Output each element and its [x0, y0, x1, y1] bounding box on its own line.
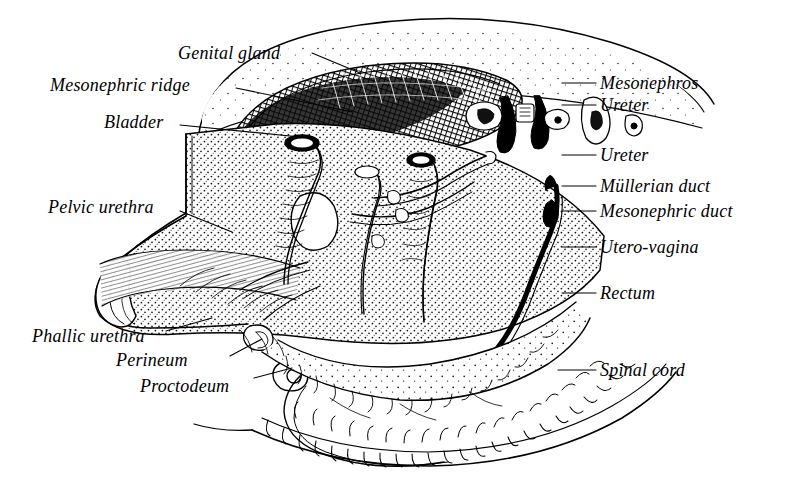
label-ureter-upper: Ureter — [600, 96, 649, 114]
label-genital-gland: Genital gland — [178, 44, 280, 62]
label-phallic-urethra: Phallic urethra — [32, 327, 145, 345]
label-mesonephric-ridge: Mesonephric ridge — [50, 76, 190, 94]
label-spinal-cord: Spinal cord — [600, 361, 685, 379]
label-mesonephros: Mesonephros — [600, 74, 699, 92]
label-bladder: Bladder — [104, 113, 163, 131]
label-utero-vagina: Utero-vagina — [600, 238, 699, 256]
label-pelvic-urethra: Pelvic urethra — [48, 198, 154, 216]
label-perineum: Perineum — [116, 351, 188, 369]
label-mesonephric-duct: Mesonephric duct — [600, 202, 733, 220]
label-rectum: Rectum — [600, 284, 655, 302]
label-mullerian-duct: Müllerian duct — [600, 177, 710, 195]
anatomical-figure: Genital glandMesonephric ridgeBladderPel… — [0, 0, 792, 487]
label-proctodeum: Proctodeum — [140, 377, 229, 395]
label-ureter-lower: Ureter — [600, 146, 649, 164]
